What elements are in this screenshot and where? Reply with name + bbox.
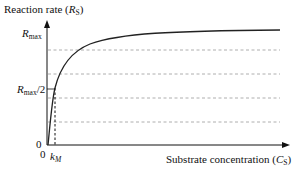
- axes: [47, 26, 284, 145]
- y-axis-arrow-icon: [44, 20, 50, 28]
- rmax-half-label: Rmax/2: [16, 83, 45, 97]
- grid-lines: [48, 50, 280, 122]
- x-axis-arrow-icon: [282, 142, 290, 148]
- y-axis-label: Reaction rate (RS): [4, 3, 84, 17]
- michaelis-menten-chart: Reaction rate (RS) Rmax Rmax/2 0 0 kM Su…: [0, 0, 303, 171]
- rate-curve: [48, 30, 280, 145]
- origin-x-label: 0: [40, 148, 46, 160]
- km-label: kM: [50, 150, 62, 164]
- rmax-label: Rmax: [21, 27, 42, 41]
- x-axis-label: Substrate concentration (CS): [166, 153, 291, 167]
